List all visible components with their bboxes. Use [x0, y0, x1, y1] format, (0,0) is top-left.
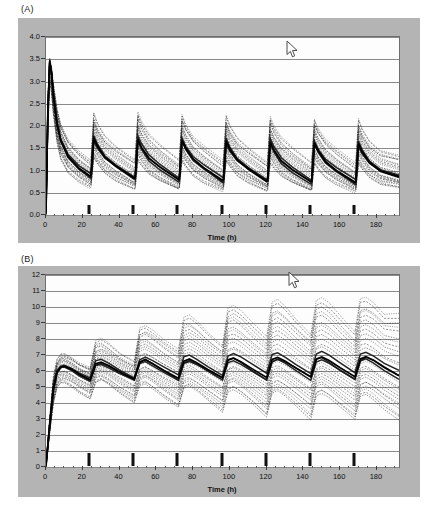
- dose-event-marker: [308, 205, 311, 214]
- y-axis-tick: [41, 36, 45, 37]
- dose-event-marker: [352, 453, 355, 466]
- x-axis-tick: [82, 214, 83, 218]
- x-axis-tick: [45, 214, 46, 218]
- dose-event-marker: [176, 453, 179, 466]
- dose-event-marker: [352, 205, 355, 214]
- panel-a-letter: (A): [21, 4, 34, 14]
- x-axis-tick: [192, 466, 193, 470]
- dose-event-marker: [88, 205, 91, 214]
- x-axis-tick: [119, 466, 120, 470]
- trajectory-line: [46, 301, 399, 465]
- x-axis-tick: [192, 214, 193, 218]
- y-axis-tick-label: 0.5: [15, 187, 40, 196]
- x-axis-minor-tick: [54, 466, 55, 468]
- x-axis-tick-label: 180: [370, 472, 383, 481]
- x-axis-minor-tick: [312, 466, 313, 468]
- x-axis-minor-tick: [330, 466, 331, 468]
- y-axis-tick: [41, 147, 45, 148]
- x-axis-tick: [266, 466, 267, 470]
- x-axis-tick: [339, 214, 340, 218]
- y-axis-tick-label: 7: [15, 350, 40, 359]
- x-axis-minor-tick: [330, 214, 331, 216]
- x-axis-tick: [266, 214, 267, 218]
- y-axis-tick-label: 11: [15, 286, 40, 295]
- trajectory-line: [46, 64, 399, 213]
- x-axis-minor-tick: [220, 214, 221, 216]
- y-axis-tick: [41, 58, 45, 59]
- y-axis-tick: [41, 125, 45, 126]
- x-axis-minor-tick: [220, 466, 221, 468]
- panel-b-letter: (B): [21, 254, 34, 264]
- x-axis-tick: [376, 214, 377, 218]
- y-axis-tick-label: 1: [15, 446, 40, 455]
- dose-event-marker: [220, 205, 223, 214]
- x-axis-tick: [302, 214, 303, 218]
- x-axis-minor-tick: [394, 466, 395, 468]
- panel-b-x-axis-label: Time (h): [207, 485, 236, 494]
- dose-event-marker: [176, 205, 179, 214]
- x-axis-minor-tick: [256, 466, 257, 468]
- x-axis-tick-label: 120: [259, 220, 272, 229]
- x-axis-tick: [155, 214, 156, 218]
- x-axis-minor-tick: [201, 466, 202, 468]
- y-axis-tick-label: 4: [15, 398, 40, 407]
- x-axis-tick-label: 60: [151, 472, 159, 481]
- y-axis-tick-label: 2.5: [15, 98, 40, 107]
- dose-event-marker: [308, 453, 311, 466]
- y-axis-tick: [41, 418, 45, 419]
- x-axis-minor-tick: [293, 466, 294, 468]
- x-axis-minor-tick: [128, 466, 129, 468]
- y-axis-tick-label: 5: [15, 382, 40, 391]
- x-axis-minor-tick: [73, 466, 74, 468]
- x-axis-minor-tick: [385, 466, 386, 468]
- y-axis-tick-label: 9: [15, 318, 40, 327]
- x-axis-tick: [155, 466, 156, 470]
- x-axis-minor-tick: [174, 214, 175, 216]
- x-axis-tick-label: 140: [296, 220, 309, 229]
- y-axis-tick-label: 2.0: [15, 121, 40, 130]
- x-axis-tick-label: 80: [188, 220, 196, 229]
- x-axis-minor-tick: [73, 214, 74, 216]
- median-trajectory-line: [46, 61, 399, 212]
- x-axis-tick-label: 20: [78, 220, 86, 229]
- dose-event-marker: [132, 453, 135, 466]
- x-axis-minor-tick: [91, 214, 92, 216]
- x-axis-tick-label: 160: [333, 472, 346, 481]
- y-axis-tick: [41, 306, 45, 307]
- x-axis-minor-tick: [238, 466, 239, 468]
- x-axis-tick-label: 160: [333, 220, 346, 229]
- x-axis-tick-label: 60: [151, 220, 159, 229]
- trajectory-line: [46, 61, 399, 213]
- trajectory-line: [46, 378, 399, 464]
- panel-a: (A) 0.00.51.01.52.02.53.03.54.0 02040608…: [0, 0, 444, 250]
- x-axis-minor-tick: [284, 466, 285, 468]
- y-axis-tick-label: 12: [15, 270, 40, 279]
- x-axis-tick-label: 120: [259, 472, 272, 481]
- gridline: [46, 215, 399, 216]
- trajectory-line: [46, 372, 399, 465]
- y-axis-tick-label: 2: [15, 430, 40, 439]
- y-axis-tick: [41, 290, 45, 291]
- y-axis-tick-label: 10: [15, 302, 40, 311]
- x-axis-minor-tick: [394, 214, 395, 216]
- figure-container: (A) 0.00.51.01.52.02.53.03.54.0 02040608…: [0, 0, 444, 508]
- dose-event-marker: [132, 205, 135, 214]
- x-axis-minor-tick: [284, 214, 285, 216]
- x-axis-tick: [302, 466, 303, 470]
- y-axis-tick: [41, 322, 45, 323]
- x-axis-tick-label: 20: [78, 472, 86, 481]
- x-axis-minor-tick: [174, 466, 175, 468]
- x-axis-tick-label: 80: [188, 472, 196, 481]
- trajectory-line: [46, 61, 399, 213]
- y-axis-tick: [41, 386, 45, 387]
- dose-event-marker: [264, 205, 267, 214]
- dose-event-marker: [88, 453, 91, 466]
- trajectory-line: [46, 315, 399, 465]
- y-axis-tick-label: 4.0: [15, 32, 40, 41]
- x-axis-minor-tick: [247, 466, 248, 468]
- x-axis-tick-label: 40: [114, 472, 122, 481]
- x-axis-minor-tick: [321, 466, 322, 468]
- x-axis-minor-tick: [201, 214, 202, 216]
- x-axis-tick-label: 0: [43, 472, 47, 481]
- y-axis-tick: [41, 274, 45, 275]
